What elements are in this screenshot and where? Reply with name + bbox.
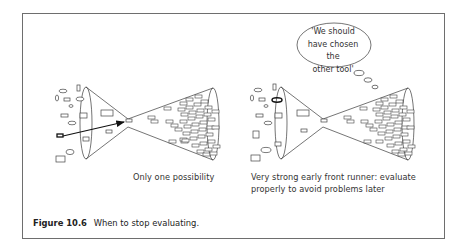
right-scattered-options (250, 84, 327, 161)
thought-line-3: other tool' (300, 64, 366, 77)
funnel-diagrams (0, 0, 469, 252)
figure-label: Figure 10.6 (33, 218, 87, 228)
left-panel-caption: Only one possibility (133, 171, 214, 183)
thought-line-2: have chosen the (300, 39, 366, 64)
right-caption-line-2: properly to avoid problems later (251, 183, 416, 195)
figure-title: When to stop evaluating. (94, 218, 199, 228)
left-neck-option (126, 119, 132, 122)
left-bricks (148, 95, 220, 156)
left-caption-line-1: Only one possibility (133, 171, 214, 183)
thought-bubble-text: 'We should have chosen the other tool' (300, 26, 366, 76)
left-selected-option (57, 134, 63, 137)
front-runner-option (272, 98, 282, 102)
figure-caption: Figure 10.6 When to stop evaluating. (33, 218, 199, 228)
left-scattered-options (55, 85, 113, 162)
thought-line-1: 'We should (300, 26, 366, 39)
right-bricks (344, 95, 415, 156)
right-caption-line-1: Very strong early front runner: evaluate (251, 171, 416, 183)
right-panel-caption: Very strong early front runner: evaluate… (251, 171, 416, 195)
